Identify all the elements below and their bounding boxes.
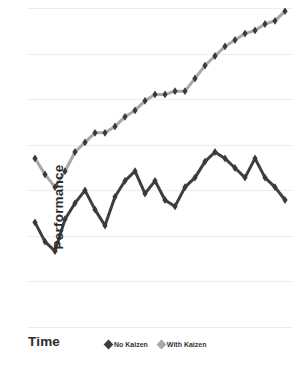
chart-page: Performance Time No KaizenWith Kaizen	[0, 0, 301, 370]
data-point-marker	[162, 91, 167, 99]
legend-item-no-kaizen[interactable]: No Kaizen	[105, 340, 148, 349]
data-point-marker	[172, 87, 177, 95]
chart-legend: No KaizenWith Kaizen	[105, 340, 206, 349]
series-no-kaizen	[32, 148, 287, 255]
series-with-kaizen	[32, 8, 287, 191]
x-axis-title: Time	[28, 334, 60, 349]
legend-label: With Kaizen	[167, 340, 207, 349]
y-axis-title: Performance	[48, 142, 70, 272]
legend-label: No Kaizen	[114, 340, 148, 349]
legend-marker-icon	[104, 340, 114, 350]
legend-item-with-kaizen[interactable]: With Kaizen	[158, 340, 207, 349]
series-line	[35, 152, 285, 251]
series-line	[35, 11, 285, 187]
legend-marker-icon	[156, 340, 166, 350]
